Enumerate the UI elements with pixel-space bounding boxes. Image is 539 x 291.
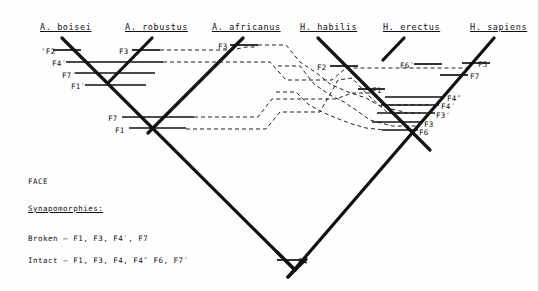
note-intact: Intact — F1, F3, F4, F4″ F6, F7′ [28,256,189,265]
character-label-c-f1b: F1 [372,86,382,95]
character-label-c-f3b: F3 [218,42,228,51]
note-broken: Broken — F1, F3, F4′, F7 [28,234,148,243]
character-label-c-f2p: 'F2 [41,47,55,56]
note-face: FACE [28,177,48,186]
dashed-link [276,92,384,130]
taxon-label-h-sapiens: H. sapiens [470,22,527,32]
character-label-c-f7b: F7 [470,72,480,81]
branch-line [288,38,494,277]
taxon-label-a-robustus: A. robustus [125,22,188,32]
taxon-label-a-boisei: A. boisei [40,22,91,32]
cladogram-svg [0,0,539,291]
character-label-c-f4p2: F4′ [441,102,455,111]
branch-line [277,252,295,270]
character-label-c-f1a: F1 [115,126,125,135]
character-label-c-f1p: F1′ [71,82,85,91]
dashed-correlation-lines [160,45,470,130]
figure-canvas: A. boiseiA. robustusA. africanusH. habil… [0,0,539,291]
branch-line [383,38,404,60]
branch-line [148,38,243,133]
character-label-c-f6: F6 [419,128,429,137]
character-label-c-f4root: F4 [298,257,308,266]
character-label-c-f6p: F6′ [400,61,414,70]
character-label-c-f7: F7 [108,114,118,123]
character-label-c-f7p: F7′ [62,71,76,80]
taxon-label-h-habilis: H. habilis [300,22,357,32]
character-label-c-f3p: F3′ [436,111,450,120]
taxon-label-h-erectus: H. erectus [383,22,440,32]
dashed-link [160,47,258,50]
taxon-label-a-africanus: A. africanus [212,22,281,32]
character-label-c-f5: F5 [478,60,488,69]
character-label-c-f3a: F3 [119,47,129,56]
character-tick-bars [53,45,490,260]
character-label-c-f4p: F4′ [52,59,66,68]
note-synapomorphies: Synapomorphies: [28,204,103,213]
character-label-c-f2: F2 [317,63,327,72]
branch-line [108,38,152,83]
